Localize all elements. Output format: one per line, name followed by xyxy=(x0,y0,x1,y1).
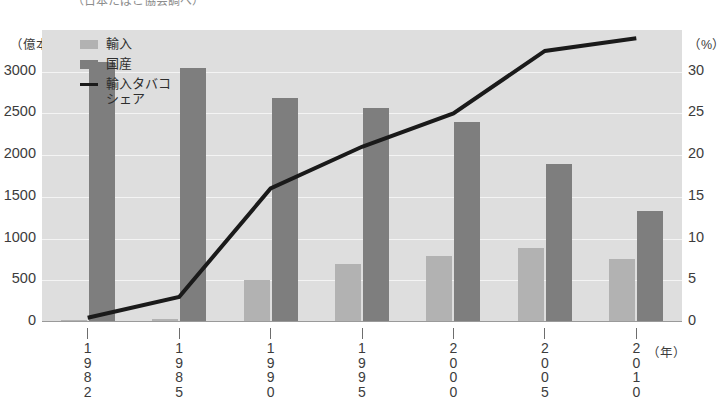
right-tick-10: 10 xyxy=(688,229,725,245)
year-digit: 9 xyxy=(347,356,377,371)
right-tick-15: 15 xyxy=(688,187,725,203)
right-tick-30: 30 xyxy=(688,62,725,78)
right-tick-0: 0 xyxy=(688,312,725,328)
year-digit: 5 xyxy=(347,385,377,400)
legend-label: 輸入タバコ シェア xyxy=(106,76,171,106)
right-tick-5: 5 xyxy=(688,270,725,286)
year-digit: 0 xyxy=(530,370,560,385)
tick-mark xyxy=(453,328,454,339)
x-tick-2010: 2010（年） xyxy=(621,328,651,399)
year-digit: 1 xyxy=(621,370,651,385)
year-digit: 8 xyxy=(73,370,103,385)
year-digit: 1 xyxy=(347,341,377,356)
tick-mark xyxy=(270,328,271,339)
legend-swatch-import xyxy=(80,40,98,49)
legend: 輸入国産輸入タバコ シェア xyxy=(80,36,171,110)
year-digit: 9 xyxy=(256,356,286,371)
legend-item-1: 国産 xyxy=(80,56,171,72)
legend-label: 輸入 xyxy=(106,36,132,51)
left-tick-3000: 3000 xyxy=(0,62,36,78)
x-tick-2005: 2005 xyxy=(530,328,560,399)
legend-item-2: 輸入タバコ シェア xyxy=(80,76,171,106)
x-tick-1985: 1985 xyxy=(164,328,194,399)
legend-label: 国産 xyxy=(106,56,132,71)
x-axis-unit-label: （年） xyxy=(647,342,686,361)
tick-mark xyxy=(636,328,637,339)
x-tick-2000: 2000 xyxy=(438,328,468,399)
legend-swatch-line xyxy=(80,83,98,86)
year-digit: 2 xyxy=(530,341,560,356)
year-digit: 0 xyxy=(438,370,468,385)
right-axis-unit-label: （%） xyxy=(688,34,725,53)
right-tick-20: 20 xyxy=(688,145,725,161)
left-tick-1000: 1000 xyxy=(0,229,36,245)
left-tick-2000: 2000 xyxy=(0,145,36,161)
legend-swatch-domestic xyxy=(80,60,98,69)
tick-mark xyxy=(544,328,545,339)
year-digit: 5 xyxy=(164,385,194,400)
year-digit: 9 xyxy=(164,356,194,371)
chart-title: （日本たばこ協会調べ） xyxy=(72,0,204,8)
x-tick-1982: 1982 xyxy=(73,328,103,399)
year-digit: 0 xyxy=(438,385,468,400)
year-digit: 0 xyxy=(530,356,560,371)
year-digit: 8 xyxy=(164,370,194,385)
right-tick-25: 25 xyxy=(688,103,725,119)
year-digit: 1 xyxy=(164,341,194,356)
year-digit: 9 xyxy=(73,356,103,371)
chart-container: （日本たばこ協会調べ） （億本） （%） 3000250020001500100… xyxy=(0,0,725,408)
left-tick-500: 500 xyxy=(0,270,36,286)
left-tick-0: 0 xyxy=(0,312,36,328)
year-digit: 5 xyxy=(530,385,560,400)
left-tick-1500: 1500 xyxy=(0,187,36,203)
year-digit: 9 xyxy=(347,370,377,385)
year-digit: 1 xyxy=(73,341,103,356)
year-digit: 1 xyxy=(256,341,286,356)
year-digit: 9 xyxy=(256,370,286,385)
x-tick-1990: 1990 xyxy=(256,328,286,399)
year-digit: 2 xyxy=(73,385,103,400)
year-digit: 0 xyxy=(621,385,651,400)
year-digit: 2 xyxy=(438,341,468,356)
legend-item-0: 輸入 xyxy=(80,36,171,52)
chart-title-strip: （日本たばこ協会調べ） xyxy=(0,0,725,14)
year-digit: 0 xyxy=(438,356,468,371)
x-axis-baseline xyxy=(42,321,682,322)
x-tick-1995: 1995 xyxy=(347,328,377,399)
tick-mark xyxy=(362,328,363,339)
year-digit: 0 xyxy=(256,385,286,400)
left-tick-2500: 2500 xyxy=(0,103,36,119)
tick-mark xyxy=(87,328,88,339)
tick-mark xyxy=(179,328,180,339)
